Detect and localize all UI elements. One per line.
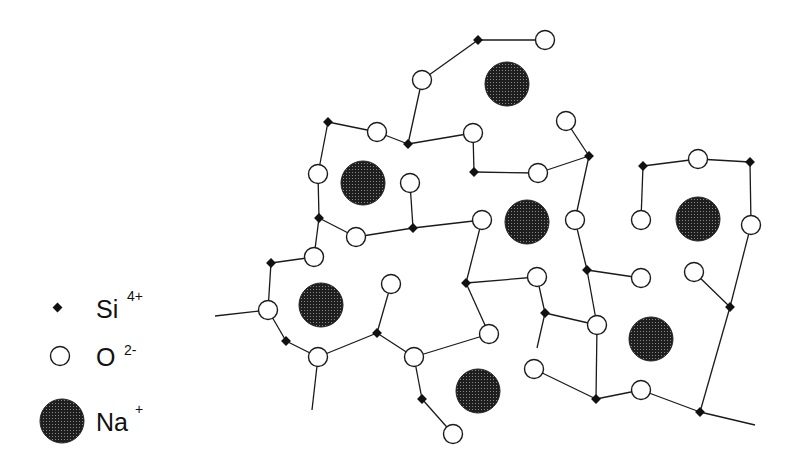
si-ion [403,139,413,149]
o-ion [305,248,324,267]
o-ion [557,112,576,131]
bond-line [700,307,730,412]
bond-line [596,325,597,399]
si-marker-icon [53,303,63,313]
si-ion [266,258,276,268]
na-ion [456,369,500,413]
legend-label-si: Si [96,295,118,323]
si-ion [591,394,601,404]
o-ion [566,211,585,230]
o-ion [368,123,387,142]
si-ion [582,265,592,275]
o-ion [405,348,424,367]
na-marker-icon [40,399,84,443]
bond-line [700,412,755,425]
bond-line [413,220,482,228]
o-ion [632,381,651,400]
o-ion [588,316,607,335]
o-ion [689,150,708,169]
o-ion [529,164,548,183]
o-ion [632,269,651,288]
bond-line [422,40,478,80]
legend-item-si: Si 4+ [53,288,143,323]
o-ion [259,301,278,320]
na-ion [299,283,343,327]
o-ion [742,216,761,235]
si-ion [408,223,418,233]
si-ion [745,157,755,167]
na-ion [341,161,385,205]
na-ion [485,62,529,106]
o-ion [525,360,544,379]
na-ion [629,317,673,361]
o-ion [528,268,547,287]
legend-label-o: O [96,343,115,371]
o-ion [401,174,420,193]
bond-line [466,277,537,283]
o-ion [685,263,704,282]
na-ion [676,197,720,241]
legend-charge-o: 2- [124,342,137,358]
si-ion [540,308,550,318]
si-ion [469,167,479,177]
legend-label-na: Na [96,408,128,436]
bond-line [534,369,596,399]
o-ion [473,211,492,230]
o-ion [480,325,499,344]
o-ion [309,165,328,184]
o-ion [632,211,651,230]
o-ion [536,31,555,50]
si-ion [323,117,333,127]
si-ion [281,336,291,346]
legend-item-o: O 2- [51,342,137,371]
si-ion [695,407,705,417]
sodium-silicate-glass-diagram: Si 4+ O 2- Na + [0,0,801,470]
o-marker-icon [51,347,70,366]
o-ion [382,275,401,294]
si-ion [372,328,382,338]
legend-item-na: Na + [40,399,143,443]
legend-charge-si: 4+ [127,288,143,304]
o-ion [464,124,483,143]
o-ion [347,228,366,247]
legend-charge-na: + [135,401,143,417]
bond-line [730,225,751,307]
o-ion [444,425,463,444]
si-ion [314,213,324,223]
si-ion [473,35,483,45]
si-ion [638,161,648,171]
si-ion [461,278,471,288]
bond-line [537,313,545,348]
si-ion [584,151,594,161]
legend: Si 4+ O 2- Na + [40,288,143,443]
o-ion [309,348,328,367]
bond-line [414,334,489,357]
na-ion [505,200,549,244]
o-ion [413,71,432,90]
